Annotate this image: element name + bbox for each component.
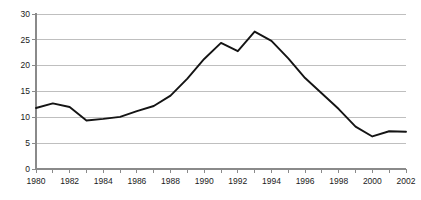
x-tick-label: 1982	[60, 176, 79, 186]
x-tick-label: 1994	[262, 176, 281, 186]
line-chart: 051015202530 198019821984198619881990199…	[0, 0, 421, 200]
y-tick-label: 5	[25, 138, 30, 148]
x-tick-label: 1998	[329, 176, 348, 186]
x-tick-label: 2002	[397, 176, 416, 186]
y-tick-label: 10	[21, 112, 31, 122]
x-tick-label: 1996	[296, 176, 315, 186]
y-tick-label: 25	[21, 35, 31, 45]
x-tick-label: 1992	[228, 176, 247, 186]
x-tick-label: 2000	[363, 176, 382, 186]
x-axis-tickmarks	[36, 169, 406, 173]
x-tick-label: 1988	[161, 176, 180, 186]
gridlines	[36, 14, 406, 169]
y-axis-tick-labels: 051015202530	[21, 9, 36, 174]
chart-canvas: 051015202530 198019821984198619881990199…	[0, 0, 421, 200]
x-axis-tick-labels: 1980198219841986198819901992199419961998…	[27, 176, 416, 186]
x-tick-label: 1984	[94, 176, 113, 186]
x-tick-label: 1980	[27, 176, 46, 186]
y-tick-label: 30	[21, 9, 31, 19]
x-tick-label: 1990	[195, 176, 214, 186]
y-tick-label: 0	[25, 164, 30, 174]
y-tick-label: 20	[21, 60, 31, 70]
x-tick-label: 1986	[127, 176, 146, 186]
y-tick-label: 15	[21, 86, 31, 96]
data-series-line	[36, 32, 406, 137]
